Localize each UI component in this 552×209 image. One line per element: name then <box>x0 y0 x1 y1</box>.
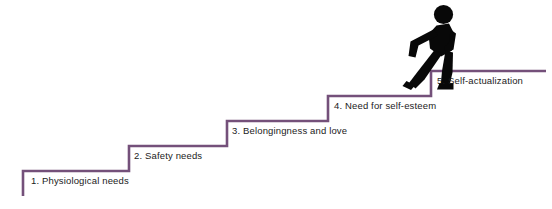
staircase-figure: 1. Physiological needs 2. Safety needs 3… <box>0 0 552 209</box>
step-label-3: 3. Belongingness and love <box>232 125 347 137</box>
step-label-5: 5. Self-actualization <box>437 75 523 87</box>
step-label-1: 1. Physiological needs <box>31 175 129 187</box>
walker-head-icon <box>434 5 453 24</box>
step-label-4: 4. Need for self-esteem <box>334 100 436 112</box>
step-label-2: 2. Safety needs <box>134 150 202 162</box>
